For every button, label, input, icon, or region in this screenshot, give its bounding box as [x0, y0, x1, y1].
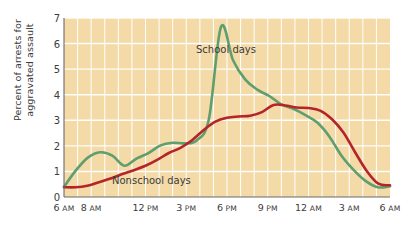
series-label-school-days: School days — [196, 44, 256, 55]
x-tick-meridiem: AM — [345, 204, 360, 213]
x-tick-label: 3 AM — [339, 202, 360, 213]
x-tick-hour: 12 — [132, 202, 144, 213]
x-tick-label: 12 PM — [132, 202, 158, 213]
x-tick-meridiem: PM — [223, 204, 237, 213]
x-tick-label: 6 PM — [217, 202, 237, 213]
x-tick-hour: 12 — [295, 202, 307, 213]
x-tick-meridiem: AM — [386, 204, 401, 213]
x-tick-label: 9 PM — [258, 202, 278, 213]
series-label-nonschool-days: Nonschool days — [112, 175, 191, 186]
x-tick-label: 8 AM — [81, 202, 102, 213]
x-tick-meridiem: PM — [182, 204, 196, 213]
x-tick-meridiem: AM — [60, 204, 75, 213]
x-tick-meridiem: AM — [307, 204, 322, 213]
x-tick-label: 6 AM — [54, 202, 75, 213]
x-tick-label: 6 AM — [380, 202, 401, 213]
chart-figure: Percent of arrests for aggravated assaul… — [0, 0, 413, 231]
x-tick-meridiem: PM — [144, 204, 158, 213]
x-axis-ticks: 6 AM8 AM12 PM3 PM6 PM9 PM12 AM3 AM6 AM — [0, 0, 413, 231]
x-tick-label: 3 PM — [176, 202, 196, 213]
x-tick-meridiem: AM — [87, 204, 102, 213]
x-tick-label: 12 AM — [295, 202, 322, 213]
x-tick-meridiem: PM — [264, 204, 278, 213]
